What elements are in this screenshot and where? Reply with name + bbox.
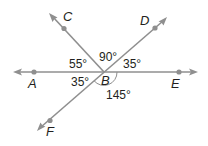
point-F (47, 118, 52, 123)
angle-DBE-label: 35° (123, 57, 141, 71)
point-D (152, 25, 157, 30)
label-D: D (140, 13, 149, 28)
angle-ABC-label: 55° (69, 57, 87, 71)
point-E (176, 69, 181, 74)
label-F: F (46, 124, 55, 139)
label-A: A (27, 76, 37, 91)
point-A (31, 69, 36, 74)
point-C (61, 26, 66, 31)
angle-ABF-label: 35° (71, 75, 89, 89)
angle-diagram: C D A B E F 55° 90° 35° 35° 145° (0, 0, 208, 146)
label-E: E (171, 76, 180, 91)
angle-CBD-label: 90° (99, 50, 117, 64)
angle-FBE-label: 145° (106, 88, 131, 102)
label-B: B (101, 73, 110, 88)
label-C: C (63, 9, 73, 24)
